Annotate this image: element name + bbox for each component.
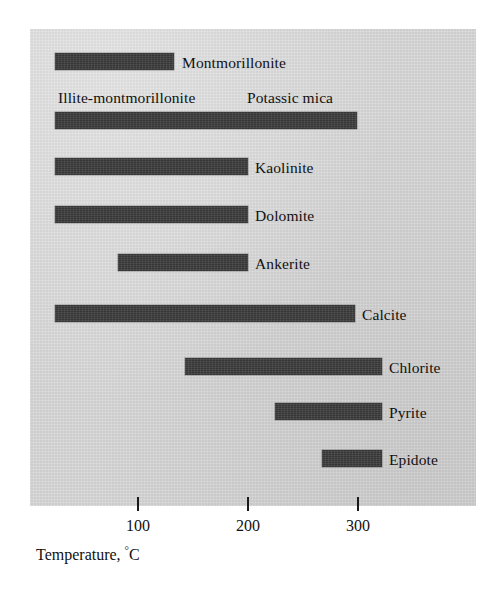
- bar-label-dolomite: Dolomite: [255, 208, 314, 224]
- annotation-potassic-mica: Potassic mica: [247, 90, 333, 106]
- bar-dolomite: [55, 206, 248, 223]
- xaxis-tick-300: [357, 497, 359, 511]
- bar-ankerite: [118, 254, 248, 271]
- figure-container: Montmorillonite Illite-montmorillonite P…: [0, 0, 499, 592]
- xaxis-tick-100: [137, 497, 139, 511]
- bar-calcite: [55, 305, 355, 322]
- bar-label-chlorite: Chlorite: [389, 360, 441, 376]
- bar-illite-montmorillonite-potassic-mica: [55, 112, 357, 129]
- bar-montmorillonite: [55, 53, 174, 70]
- bar-label-calcite: Calcite: [362, 307, 407, 323]
- bar-epidote: [322, 450, 382, 467]
- xaxis-title: Temperature, °C: [36, 545, 140, 563]
- xaxis-title-unit: C: [129, 546, 140, 563]
- bar-label-montmorillonite: Montmorillonite: [182, 55, 286, 71]
- bar-pyrite: [275, 403, 382, 420]
- xaxis-ticklabel-300: 300: [346, 518, 370, 534]
- xaxis-ticklabel-200: 200: [236, 518, 260, 534]
- xaxis-tick-200: [247, 497, 249, 511]
- annotation-illite-montmorillonite: Illite-montmorillonite: [58, 90, 195, 106]
- bar-label-epidote: Epidote: [389, 452, 438, 468]
- xaxis-ticklabel-100: 100: [126, 518, 150, 534]
- xaxis-title-text: Temperature,: [36, 546, 125, 563]
- bar-chlorite: [185, 358, 382, 375]
- bar-label-pyrite: Pyrite: [389, 405, 427, 421]
- bar-label-kaolinite: Kaolinite: [255, 160, 314, 176]
- bar-kaolinite: [55, 158, 248, 175]
- bar-label-ankerite: Ankerite: [255, 256, 310, 272]
